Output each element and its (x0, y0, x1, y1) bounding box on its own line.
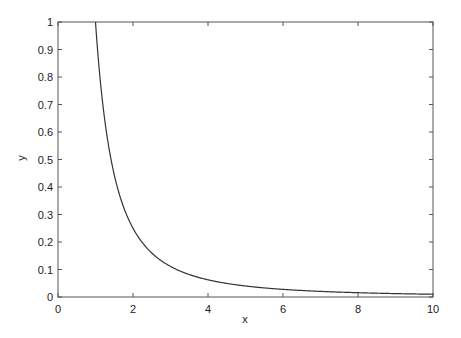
y-tick-label: 0.8 (38, 71, 53, 83)
x-tick-label: 8 (355, 303, 361, 315)
y-tick-label: 0.3 (38, 209, 53, 221)
y-tick-label: 0.9 (38, 44, 53, 56)
x-tick-label: 4 (205, 303, 211, 315)
plot-area: 0246810 00.10.20.30.40.50.60.70.80.91 (38, 16, 439, 315)
y-tick-label: 0.6 (38, 126, 53, 138)
x-tick-label: 2 (130, 303, 136, 315)
y-tick-label: 0.2 (38, 236, 53, 248)
y-tick-label: 0 (47, 291, 53, 303)
y-tick-label: 0.5 (38, 154, 53, 166)
x-tick-label: 0 (55, 303, 61, 315)
x-axis-label: x (242, 313, 248, 325)
x-tick-label: 6 (280, 303, 286, 315)
y-axis-label: y (15, 155, 27, 161)
chart: 0246810 00.10.20.30.40.50.60.70.80.91 x … (0, 0, 461, 338)
y-axis-ticks: 00.10.20.30.40.50.60.70.80.91 (38, 16, 433, 303)
y-tick-label: 0.4 (38, 181, 53, 193)
y-tick-label: 1 (47, 16, 53, 28)
data-line (96, 22, 434, 294)
y-tick-label: 0.7 (38, 99, 53, 111)
axes-box (58, 22, 433, 297)
x-tick-label: 10 (427, 303, 439, 315)
y-tick-label: 0.1 (38, 264, 53, 276)
